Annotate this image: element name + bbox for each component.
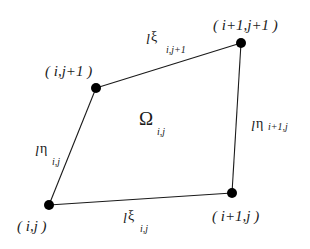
edge-right xyxy=(232,43,241,193)
node-label-i1-j1: ( i+1,j+1 ) xyxy=(213,17,278,34)
node-i1-j1 xyxy=(236,38,246,48)
edge-label-top: l ξ i,j+1 xyxy=(146,29,186,55)
node-label-i-j: ( i,j ) xyxy=(17,218,47,235)
edge-label-right: l η i+1,j xyxy=(251,116,288,134)
svg-text:i+1,j: i+1,j xyxy=(268,121,288,132)
svg-text:i,j: i,j xyxy=(157,126,165,137)
svg-text:ξ: ξ xyxy=(151,29,157,44)
node-i-j1 xyxy=(91,83,101,93)
svg-text:i,j: i,j xyxy=(140,223,148,234)
svg-text:l: l xyxy=(123,211,127,226)
edge-label-left: l η i,j xyxy=(35,141,60,167)
node-i1-j xyxy=(227,188,237,198)
svg-text:i,j+1: i,j+1 xyxy=(166,44,186,55)
svg-text:ξ: ξ xyxy=(128,208,134,223)
svg-text:l: l xyxy=(146,32,150,47)
node-label-i-j1: ( i,j+1 ) xyxy=(45,63,92,80)
svg-text:η: η xyxy=(40,141,47,156)
svg-text:l: l xyxy=(251,119,255,134)
edge-left xyxy=(49,88,96,205)
svg-text:η: η xyxy=(256,116,263,131)
svg-text:i,j: i,j xyxy=(52,156,60,167)
grid-cell-diagram: ( i,j ) ( i+1,j ) ( i+1,j+1 ) ( i,j+1 ) … xyxy=(0,0,310,249)
edge-bottom xyxy=(49,193,232,205)
cell-label-omega: Ω i,j xyxy=(139,108,165,137)
node-label-i1-j: ( i+1,j ) xyxy=(212,208,259,225)
svg-text:Ω: Ω xyxy=(139,108,153,129)
edge-label-bottom: l ξ i,j xyxy=(123,208,148,234)
svg-text:l: l xyxy=(35,144,39,159)
node-i-j xyxy=(44,200,54,210)
